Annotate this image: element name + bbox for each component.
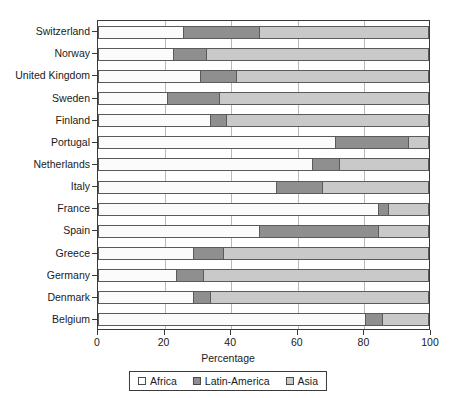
bar-row	[98, 132, 429, 154]
y-axis-label: Italy	[0, 180, 90, 192]
bar-segment-asia	[237, 70, 429, 83]
bar-segment-africa	[98, 48, 174, 61]
bar-segment-latin	[177, 269, 203, 282]
x-axis-tick	[164, 330, 165, 335]
bar-segment-africa	[98, 247, 194, 260]
stacked-bar	[98, 92, 429, 105]
x-axis-tick-label: 100	[421, 336, 439, 348]
x-axis-tick	[297, 330, 298, 335]
x-axis-tick-label: 40	[224, 336, 236, 348]
y-axis-label: Switzerland	[0, 25, 90, 37]
y-axis-label: Denmark	[0, 291, 90, 303]
bar-segment-africa	[98, 92, 168, 105]
bar-segment-asia	[207, 48, 429, 61]
bar-segment-latin	[174, 48, 207, 61]
bar-segment-latin	[313, 158, 339, 171]
y-axis-labels: SwitzerlandNorwayUnited KingdomSwedenFin…	[0, 20, 90, 330]
bar-segment-latin	[277, 181, 323, 194]
bar-segment-asia	[220, 92, 429, 105]
bar-segment-asia	[323, 181, 429, 194]
bar-segment-asia	[224, 247, 429, 260]
legend-item-africa: Africa	[138, 375, 177, 387]
bar-segment-asia	[260, 26, 429, 39]
legend-swatch-icon	[138, 377, 146, 385]
y-axis-label: Belgium	[0, 313, 90, 325]
stacked-bar	[98, 203, 429, 216]
x-axis-title: Percentage	[0, 352, 456, 364]
chart-legend: AfricaLatin-AmericaAsia	[129, 371, 327, 391]
bar-segment-asia	[340, 158, 429, 171]
stacked-bar	[98, 225, 429, 238]
bar-segment-asia	[204, 269, 429, 282]
stacked-bar-chart: SwitzerlandNorwayUnited KingdomSwedenFin…	[0, 0, 456, 398]
stacked-bar	[98, 158, 429, 171]
y-axis-label: Finland	[0, 114, 90, 126]
x-axis-tick	[430, 330, 431, 335]
bar-segment-latin	[211, 114, 228, 127]
bar-segment-asia	[383, 313, 429, 326]
stacked-bar	[98, 291, 429, 304]
stacked-bar	[98, 247, 429, 260]
y-axis-label: Spain	[0, 224, 90, 236]
y-axis-label: United Kingdom	[0, 69, 90, 81]
bar-row	[98, 21, 429, 43]
stacked-bar	[98, 48, 429, 61]
bar-segment-africa	[98, 313, 366, 326]
bar-segment-africa	[98, 114, 211, 127]
bar-segment-africa	[98, 26, 184, 39]
bar-row	[98, 87, 429, 109]
bar-segment-africa	[98, 203, 379, 216]
bar-segment-latin	[366, 313, 383, 326]
bar-segment-africa	[98, 70, 201, 83]
x-axis-tick	[97, 330, 98, 335]
bar-row	[98, 176, 429, 198]
legend-item-latin: Latin-America	[193, 375, 270, 387]
bar-row	[98, 265, 429, 287]
bar-segment-asia	[379, 225, 429, 238]
y-axis-label: Portugal	[0, 136, 90, 148]
bar-segment-latin	[168, 92, 221, 105]
bar-segment-asia	[211, 291, 429, 304]
bar-segment-latin	[201, 70, 237, 83]
bar-segment-latin	[184, 26, 260, 39]
legend-swatch-icon	[193, 377, 201, 385]
bar-segment-latin	[379, 203, 389, 216]
stacked-bar	[98, 26, 429, 39]
plot-area	[97, 20, 430, 330]
bar-segment-latin	[194, 247, 224, 260]
bar-segment-asia	[227, 114, 429, 127]
y-axis-label: Germany	[0, 269, 90, 281]
legend-label: Asia	[298, 375, 318, 387]
x-axis-tick-label: 80	[358, 336, 370, 348]
bar-segment-latin	[336, 136, 409, 149]
stacked-bar	[98, 136, 429, 149]
x-axis-tick-label: 20	[158, 336, 170, 348]
stacked-bar	[98, 70, 429, 83]
bar-rows	[98, 21, 429, 329]
legend-item-asia: Asia	[286, 375, 318, 387]
y-axis-label: Netherlands	[0, 158, 90, 170]
bar-row	[98, 287, 429, 309]
y-axis-label: Greece	[0, 247, 90, 259]
x-axis-tick-label: 0	[94, 336, 100, 348]
bar-row	[98, 154, 429, 176]
stacked-bar	[98, 313, 429, 326]
x-axis-tick	[230, 330, 231, 335]
stacked-bar	[98, 181, 429, 194]
bar-segment-latin	[194, 291, 211, 304]
bar-row	[98, 43, 429, 65]
bar-row	[98, 110, 429, 132]
bar-row	[98, 220, 429, 242]
bar-segment-africa	[98, 158, 313, 171]
legend-label: Latin-America	[205, 375, 270, 387]
bar-row	[98, 242, 429, 264]
legend-swatch-icon	[286, 377, 294, 385]
x-axis-tick-label: 60	[291, 336, 303, 348]
bar-segment-africa	[98, 181, 277, 194]
bar-segment-asia	[409, 136, 429, 149]
stacked-bar	[98, 114, 429, 127]
y-axis-label: Sweden	[0, 92, 90, 104]
bar-row	[98, 309, 429, 331]
bar-segment-africa	[98, 269, 177, 282]
bar-segment-asia	[389, 203, 429, 216]
